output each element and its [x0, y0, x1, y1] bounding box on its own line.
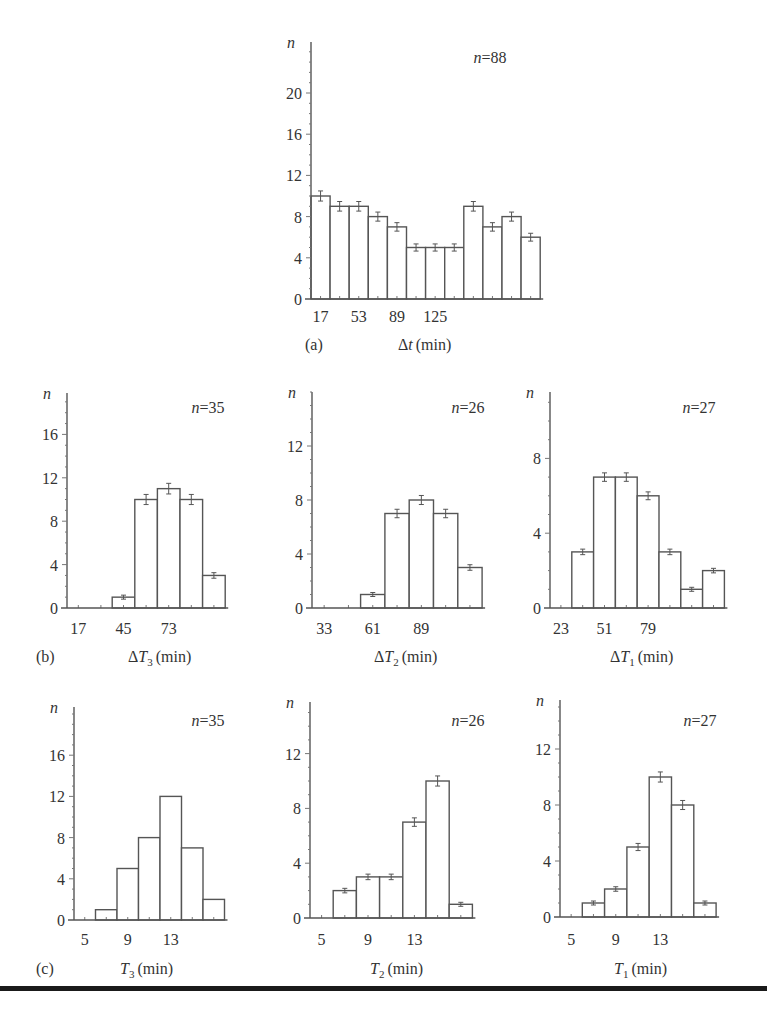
y-tick-label: 0	[50, 600, 58, 617]
y-tick-label: 8	[294, 209, 302, 226]
x-tick-label: 89	[413, 620, 429, 637]
y-tick-label: 12	[286, 167, 302, 184]
histogram-bar	[117, 869, 139, 921]
histogram-bar	[135, 500, 158, 609]
sample-size-annotation: n=26	[451, 399, 484, 416]
sample-size-annotation: n=35	[191, 399, 224, 416]
y-tick-label: 4	[50, 557, 58, 574]
y-tick-label: 20	[286, 85, 302, 102]
x-tick-label: 9	[364, 931, 372, 948]
y-tick-label: 8	[50, 513, 58, 530]
histogram-bar	[182, 848, 204, 920]
histogram-bar	[403, 822, 426, 918]
histogram-bar	[605, 889, 627, 917]
chart-b3: 048n235179n=27ΔT1(min)	[526, 384, 727, 668]
y-tick-label: 4	[57, 871, 65, 888]
x-tick-label: 53	[351, 308, 367, 325]
histogram-bar	[409, 500, 433, 608]
histogram-bar	[659, 552, 681, 608]
histogram-bar	[387, 227, 406, 299]
histogram-bar	[483, 227, 502, 299]
histogram-bar	[333, 891, 356, 918]
x-axis-label: T3(min)	[120, 960, 173, 980]
histogram-bar	[426, 781, 449, 918]
y-tick-label: 0	[57, 912, 65, 929]
y-tick-label: 0	[533, 600, 541, 617]
histogram-bar	[703, 571, 725, 608]
histogram-bar	[311, 196, 330, 299]
x-tick-label: 13	[406, 931, 422, 948]
histogram-bar	[627, 847, 649, 917]
y-tick-label: 4	[295, 546, 303, 563]
histogram-figure: 048121620n175389125n=88Δt(min)(a)0481216…	[0, 0, 767, 1012]
panel-label: (a)	[305, 336, 323, 354]
chart-c2: 04812n5913n=26T2(min)	[285, 694, 485, 980]
histogram-bar	[349, 206, 368, 299]
y-tick-label: 12	[285, 746, 301, 763]
x-axis-label: T2(min)	[370, 960, 423, 980]
sample-size-annotation: n=26	[451, 712, 484, 729]
histogram-bar	[426, 248, 445, 300]
x-tick-label: 33	[316, 620, 332, 637]
histogram-bar	[649, 777, 671, 917]
y-axis-label: n	[526, 384, 534, 401]
histogram-bar	[521, 237, 540, 299]
histogram-bar	[464, 206, 483, 299]
x-tick-label: 5	[567, 931, 575, 948]
x-axis-label: ΔT3(min)	[128, 648, 191, 668]
histogram-bar	[157, 489, 180, 608]
histogram-bar	[615, 477, 637, 608]
x-axis-label: T1(min)	[614, 960, 667, 980]
y-axis-label: n	[50, 699, 58, 716]
x-tick-label: 51	[597, 620, 613, 637]
panel-label: (b)	[36, 648, 55, 666]
y-tick-label: 0	[295, 600, 303, 617]
x-tick-label: 13	[652, 931, 668, 948]
y-tick-label: 8	[543, 797, 551, 814]
x-tick-label: 45	[116, 620, 132, 637]
y-tick-label: 4	[294, 250, 302, 267]
histogram-bar	[356, 877, 379, 918]
footer-rule	[0, 986, 767, 991]
y-tick-label: 16	[286, 126, 302, 143]
sample-size-annotation: n=88	[473, 49, 506, 66]
panel-label: (c)	[36, 960, 54, 978]
histogram-bar	[160, 796, 182, 920]
y-tick-label: 16	[49, 747, 65, 764]
histogram-bar	[330, 206, 349, 299]
x-tick-label: 17	[70, 620, 86, 637]
y-tick-label: 8	[295, 492, 303, 509]
y-tick-label: 0	[293, 910, 301, 927]
sample-size-annotation: n=35	[191, 712, 224, 729]
histogram-bar	[139, 838, 161, 920]
x-tick-label: 17	[313, 308, 329, 325]
y-tick-label: 16	[42, 426, 58, 443]
y-axis-label: n	[287, 34, 295, 51]
histogram-bar	[434, 514, 458, 609]
y-tick-label: 12	[287, 438, 303, 455]
histogram-bar	[502, 217, 521, 299]
chart-c3: 04812n5913n=27T1(min)	[535, 692, 719, 980]
histogram-bar	[445, 248, 464, 300]
y-tick-label: 12	[42, 470, 58, 487]
x-tick-label: 125	[423, 308, 447, 325]
x-axis-label: ΔT2(min)	[374, 648, 437, 668]
y-tick-label: 0	[294, 291, 302, 308]
chart-c1: 0481216n5913n=35T3(min)(c)	[36, 699, 228, 980]
x-tick-label: 5	[318, 931, 326, 948]
x-axis-label: ΔT1(min)	[610, 648, 673, 668]
x-tick-label: 13	[163, 931, 179, 948]
y-tick-label: 8	[57, 830, 65, 847]
x-tick-label: 61	[365, 620, 381, 637]
histogram-bar	[368, 217, 387, 299]
x-tick-label: 89	[389, 308, 405, 325]
histogram-bar	[572, 552, 594, 608]
y-axis-label: n	[43, 385, 51, 402]
y-tick-label: 8	[293, 800, 301, 817]
y-tick-label: 4	[533, 525, 541, 542]
x-tick-label: 5	[81, 931, 89, 948]
y-tick-label: 0	[543, 909, 551, 926]
histogram-bar	[672, 805, 694, 917]
y-axis-label: n	[288, 384, 296, 401]
chart-b1: 0481216n174573n=35ΔT3(min)(b)	[36, 385, 228, 668]
